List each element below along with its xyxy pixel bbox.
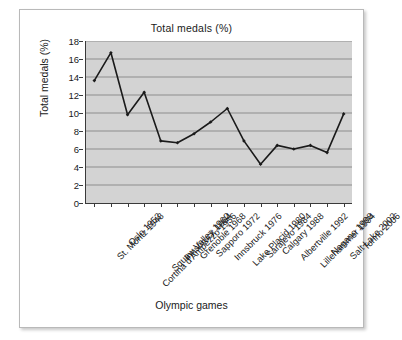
x-tick-mark <box>211 203 212 207</box>
x-axis-tick-labels: St. Moritz 1948Oslo 1952Cortina d'Ampezz… <box>85 209 351 297</box>
y-tick-mark <box>79 149 83 150</box>
y-tick-label: 12 <box>68 90 79 101</box>
y-tick-label: 16 <box>68 54 79 65</box>
y-tick-mark <box>79 77 83 78</box>
y-tick-mark <box>79 113 83 114</box>
x-tick-label: Oslo 1952 <box>126 211 163 248</box>
x-tick-mark <box>161 203 162 207</box>
x-tick-mark <box>194 203 195 207</box>
x-tick-mark <box>144 203 145 207</box>
line-series-svg <box>86 41 352 203</box>
chart-figure: Total medals (%) Total medals (%) 024681… <box>19 9 364 328</box>
x-axis-label: Olympic games <box>20 299 363 311</box>
plot-area <box>85 41 352 204</box>
x-tick-mark <box>111 203 112 207</box>
y-tick-mark <box>79 185 83 186</box>
x-tick-mark <box>277 203 278 207</box>
x-tick-mark <box>294 203 295 207</box>
y-tick-mark <box>79 131 83 132</box>
chart-title: Total medals (%) <box>20 22 363 34</box>
y-tick-mark <box>79 203 83 204</box>
x-tick-mark <box>177 203 178 207</box>
data-point-marker <box>292 147 296 151</box>
x-tick-mark <box>128 203 129 207</box>
y-tick-mark <box>79 95 83 96</box>
y-tick-label: 18 <box>68 36 79 47</box>
series-line <box>94 53 343 165</box>
x-tick-mark <box>327 203 328 207</box>
x-tick-mark <box>227 203 228 207</box>
y-tick-mark <box>79 41 83 42</box>
y-tick-label: 10 <box>68 108 79 119</box>
y-tick-mark <box>79 59 83 60</box>
x-tick-mark <box>310 203 311 207</box>
x-tick-mark <box>244 203 245 207</box>
x-tick-mark <box>261 203 262 207</box>
x-tick-mark <box>94 203 95 207</box>
y-tick-mark <box>79 167 83 168</box>
x-tick-mark <box>344 203 345 207</box>
y-axis-label: Total medals (%) <box>38 8 50 148</box>
y-tick-label: 14 <box>68 72 79 83</box>
